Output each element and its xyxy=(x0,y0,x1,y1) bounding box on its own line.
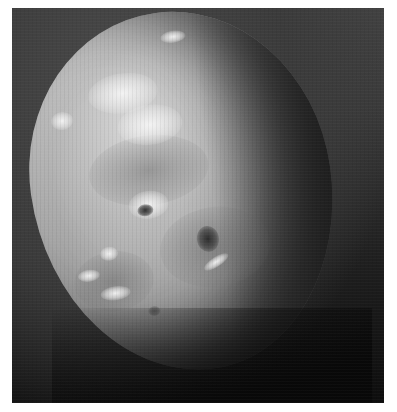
caption xyxy=(0,404,397,412)
bright-spot xyxy=(50,111,74,132)
limb-shadow xyxy=(52,308,372,403)
moon-photograph xyxy=(12,8,384,403)
bright-spot xyxy=(160,29,186,44)
